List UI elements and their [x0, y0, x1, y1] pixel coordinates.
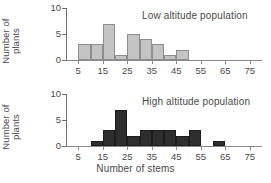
panel-note-low-altitude: Low altitude population	[142, 10, 248, 21]
y-axis-tick	[62, 146, 66, 147]
y-axis-tick-label: 0	[56, 55, 61, 65]
x-axis-tick-label: 65	[220, 152, 231, 162]
x-axis-tick-label: 35	[146, 152, 157, 162]
x-axis-title: Number of stems	[0, 163, 271, 174]
histogram-bar	[115, 55, 127, 60]
panel-high-altitude: Number of plants High altitude populatio…	[0, 88, 271, 172]
histogram-figure: Number of plants Low altitude population…	[0, 0, 271, 183]
histogram-bar	[140, 39, 152, 60]
histogram-bar	[91, 141, 103, 146]
x-axis-tick-label: 35	[146, 66, 157, 76]
x-axis-tick	[103, 60, 104, 64]
x-axis-tick	[225, 146, 226, 150]
x-axis-tick-label: 65	[220, 66, 231, 76]
histogram-bar	[127, 34, 139, 60]
x-axis-tick-label: 75	[244, 152, 255, 162]
histogram-bar	[213, 141, 225, 146]
x-axis-tick	[225, 60, 226, 64]
y-axis-title-line2: plants	[11, 18, 21, 63]
y-axis-line	[66, 94, 67, 146]
histogram-bar	[91, 44, 103, 60]
histogram-bar	[78, 44, 90, 60]
y-axis-tick	[62, 34, 66, 35]
plot-area-low-altitude: Low altitude population 0510515253545556…	[66, 8, 262, 60]
x-axis-tick	[176, 146, 177, 150]
x-axis-tick-label: 45	[171, 66, 182, 76]
y-axis-tick	[62, 8, 66, 9]
histogram-bar	[115, 110, 127, 146]
histogram-bar	[189, 130, 201, 146]
histogram-bar	[164, 55, 176, 60]
x-axis-line	[66, 146, 262, 147]
y-axis-title-top: Number of plants	[0, 10, 42, 72]
histogram-bar	[152, 130, 164, 146]
histogram-bar	[103, 24, 115, 60]
x-axis-tick-label: 5	[76, 152, 81, 162]
x-axis-line	[66, 60, 262, 61]
x-axis-tick-label: 15	[97, 152, 108, 162]
x-axis-tick-label: 55	[195, 66, 206, 76]
y-axis-title-line2: plants	[11, 104, 21, 149]
y-axis-line	[66, 8, 67, 60]
plot-area-high-altitude: High altitude population 051051525354555…	[66, 94, 262, 146]
histogram-bar	[176, 136, 188, 146]
x-axis-tick	[152, 60, 153, 64]
x-axis-tick-label: 25	[122, 66, 133, 76]
y-axis-tick-label: 5	[56, 115, 61, 125]
histogram-bar	[152, 44, 164, 60]
y-axis-tick-label: 10	[50, 3, 61, 13]
histogram-bar	[127, 136, 139, 146]
y-axis-tick	[62, 60, 66, 61]
x-axis-tick-label: 15	[97, 66, 108, 76]
x-axis-tick-label: 75	[244, 66, 255, 76]
x-axis-tick-label: 5	[76, 66, 81, 76]
x-axis-tick-label: 25	[122, 152, 133, 162]
x-axis-tick	[201, 60, 202, 64]
y-axis-tick-label: 0	[56, 141, 61, 151]
x-axis-tick	[176, 60, 177, 64]
y-axis-tick	[62, 94, 66, 95]
x-axis-tick	[127, 146, 128, 150]
panel-note-high-altitude: High altitude population	[142, 96, 250, 107]
y-axis-tick-label: 5	[56, 29, 61, 39]
x-axis-tick	[152, 146, 153, 150]
histogram-bar	[103, 130, 115, 146]
y-axis-tick	[62, 120, 66, 121]
panel-low-altitude: Number of plants Low altitude population…	[0, 2, 271, 86]
x-axis-tick	[250, 146, 251, 150]
x-axis-tick	[78, 146, 79, 150]
x-axis-tick-label: 55	[195, 152, 206, 162]
x-axis-tick	[103, 146, 104, 150]
x-axis-tick	[127, 60, 128, 64]
histogram-bar	[176, 50, 188, 60]
x-axis-tick	[201, 146, 202, 150]
histogram-bar	[164, 130, 176, 146]
y-axis-tick-label: 10	[50, 89, 61, 99]
y-axis-title-bottom: Number of plants	[0, 96, 42, 158]
x-axis-tick	[78, 60, 79, 64]
x-axis-tick-label: 45	[171, 152, 182, 162]
x-axis-tick	[250, 60, 251, 64]
histogram-bar	[140, 130, 152, 146]
